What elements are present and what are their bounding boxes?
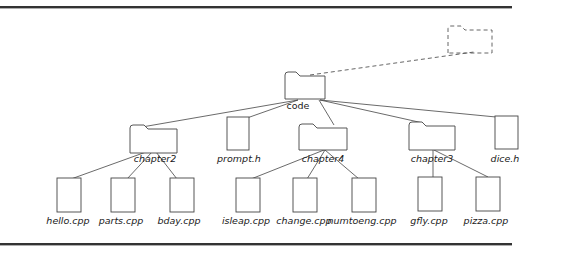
- node-change_cpp[interactable]: change.cpp: [276, 178, 331, 226]
- node-label: change.cpp: [276, 215, 331, 226]
- parent-folder-placeholder-icon: [448, 26, 492, 53]
- node-label: pizza.cpp: [463, 215, 509, 226]
- file-icon: [57, 178, 81, 212]
- file-icon: [293, 178, 317, 212]
- file-icon: [495, 116, 518, 149]
- node-label: parts.cpp: [98, 215, 144, 226]
- file-icon: [418, 177, 442, 211]
- node-chapter2[interactable]: chapter2: [130, 125, 177, 164]
- node-label: chapter4: [302, 153, 345, 164]
- file-icon: [111, 178, 135, 212]
- folder-icon: [130, 125, 177, 153]
- node-isleap_cpp[interactable]: isleap.cpp: [222, 178, 270, 226]
- node-gfly_cpp[interactable]: gfly.cpp: [410, 177, 447, 226]
- node-chapter4[interactable]: chapter4: [299, 124, 347, 164]
- tree-nodes: codechapter2prompt.hchapter4chapter3dice…: [46, 26, 519, 226]
- file-icon: [352, 178, 376, 212]
- file-icon: [170, 178, 194, 212]
- folder-icon: [299, 124, 347, 150]
- file-icon: [476, 177, 500, 211]
- folder-icon: [409, 122, 455, 150]
- node-label: bday.cpp: [157, 215, 200, 226]
- node-parts_cpp[interactable]: parts.cpp: [98, 178, 144, 226]
- node-numtoeng_cpp[interactable]: numtoeng.cpp: [327, 178, 396, 226]
- node-label: chapter2: [134, 153, 177, 164]
- node-prompt_h[interactable]: prompt.h: [216, 117, 261, 164]
- node-label: gfly.cpp: [410, 215, 447, 226]
- node-label: code: [287, 100, 310, 111]
- top-rule: [0, 6, 512, 8]
- node-dice_h[interactable]: dice.h: [491, 116, 520, 164]
- folder-icon: [285, 72, 325, 99]
- edge-parent-placeholder-to-code: [310, 52, 474, 75]
- node-label: prompt.h: [216, 153, 261, 164]
- file-icon: [227, 117, 249, 150]
- node-bday_cpp[interactable]: bday.cpp: [157, 178, 200, 226]
- bottom-rule: [0, 243, 512, 245]
- edge-code-to-chapter3: [320, 100, 423, 123]
- node-label: hello.cpp: [46, 215, 89, 226]
- directory-tree-diagram: codechapter2prompt.hchapter4chapter3dice…: [0, 0, 585, 259]
- node-chapter3[interactable]: chapter3: [409, 122, 455, 164]
- node-label: chapter3: [411, 153, 454, 164]
- edge-code-to-dice_h: [320, 100, 496, 117]
- node-label: isleap.cpp: [222, 215, 270, 226]
- edge-code-to-chapter2: [142, 100, 298, 127]
- node-hello_cpp[interactable]: hello.cpp: [46, 178, 89, 226]
- node-label: dice.h: [491, 153, 520, 164]
- node-code[interactable]: code: [285, 72, 325, 111]
- file-icon: [236, 178, 260, 212]
- node-pizza_cpp[interactable]: pizza.cpp: [463, 177, 509, 226]
- edge-code-to-chapter4: [319, 100, 334, 125]
- node-label: numtoeng.cpp: [327, 215, 396, 226]
